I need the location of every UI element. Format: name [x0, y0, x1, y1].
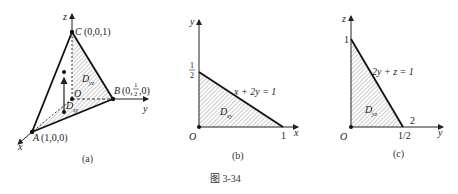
x-axis-label: x [17, 141, 23, 152]
point-c [70, 30, 74, 34]
point-a-coords: (1,0,0) [41, 132, 68, 144]
panel-c-label: (c) [393, 148, 404, 160]
region-dyz-sub: yz [88, 80, 95, 86]
region-sub-c: yz [371, 111, 378, 117]
figure-canvas: z y x C (0,0,1) A (1,0,0) O B (0, 1 2 ,0… [0, 0, 458, 194]
point-c-label: C [75, 26, 82, 37]
line-label-b: x + 2y = 1 [233, 86, 276, 97]
tick-y-half: 1/2 [398, 130, 411, 141]
point-b-coords-den: 2 [134, 90, 138, 98]
origin-label-c: O [340, 131, 347, 142]
tick-x-1: 1 [281, 130, 286, 141]
point-a-label: A [32, 132, 40, 143]
point-b-coords-num: 1 [134, 81, 138, 89]
origin-c [349, 125, 353, 129]
tick-y-half-num: 1 [190, 61, 194, 70]
y-axis-label: y [142, 103, 148, 114]
point-b [111, 97, 115, 101]
y-axis-label-b: y [189, 16, 195, 27]
z-axis-label-c: z [341, 13, 346, 24]
tick-z-1: 1 [344, 34, 349, 45]
z-axis-label: z [62, 11, 67, 22]
point-o-label: O [74, 88, 81, 99]
y-axis-label-c: y [437, 127, 443, 138]
panel-a-label: (a) [82, 153, 93, 165]
point-b-coords-prefix: (0, [122, 85, 133, 97]
point-b-label: B [114, 85, 120, 96]
panel-c: z y O 1 1/2 2 2y + z = 1 D yz (c) [340, 13, 443, 160]
line-label-c: 2y + z = 1 [372, 66, 414, 77]
tick-extra-2: 2 [410, 115, 415, 126]
region-sub-b: xy [226, 113, 233, 119]
tick-y-half-den: 2 [190, 71, 194, 80]
panel-b-label: (b) [232, 150, 244, 162]
figure-caption: 图 3-34 [210, 173, 241, 184]
panel-b: y x O 1 2 1 x + 2y = 1 D xy (b) 图 3-34 [189, 16, 299, 184]
x-axis-label-b: x [293, 127, 299, 138]
panel-a: z y x C (0,0,1) A (1,0,0) O B (0, 1 2 ,0… [17, 11, 150, 165]
origin-b [197, 125, 201, 129]
point-b-coords-suffix: ,0) [139, 85, 150, 97]
region-dxy-sub: xy [72, 107, 79, 113]
point-top [62, 70, 66, 74]
origin-label-b: O [189, 131, 196, 142]
point-c-coords: (0,0,1) [84, 26, 111, 38]
